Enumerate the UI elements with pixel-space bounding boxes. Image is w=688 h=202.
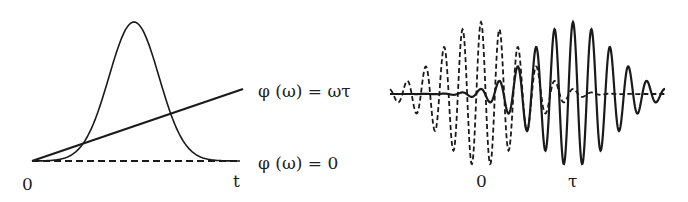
right-panel: 0 τ	[390, 22, 665, 191]
delayed-wave-packet	[390, 22, 665, 164]
left-panel: φ (ω) = ωτ φ (ω) = 0 0 t	[22, 22, 351, 194]
diagram-canvas: φ (ω) = ωτ φ (ω) = 0 0 t 0 τ	[0, 0, 688, 202]
linear-phase-label: φ (ω) = ωτ	[258, 81, 351, 101]
gaussian-envelope-curve	[32, 22, 240, 161]
delay-tau-label: τ	[568, 171, 577, 191]
time-axis-label: t	[233, 171, 240, 191]
linear-phase-line	[32, 89, 243, 161]
left-origin-label: 0	[22, 174, 33, 194]
right-origin-label: 0	[476, 171, 487, 191]
zero-phase-label: φ (ω) = 0	[258, 153, 338, 173]
